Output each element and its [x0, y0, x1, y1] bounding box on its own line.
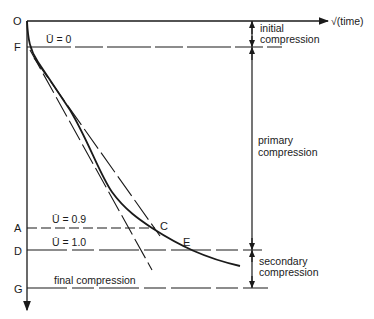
tangent-line	[30, 50, 152, 270]
compression-time-diagram: O F A D G C E Ū = 0 Ū = 0.9 Ū = 1.0 fina…	[0, 0, 374, 319]
label-a: A	[14, 222, 22, 234]
label-time-axis: √(time)	[331, 15, 364, 27]
label-f: F	[14, 41, 21, 53]
label-initial-2: compression	[260, 33, 320, 45]
label-c: C	[160, 220, 168, 232]
label-origin: O	[13, 15, 22, 27]
label-primary-2: compression	[258, 146, 318, 158]
label-u0: Ū = 0	[46, 33, 72, 45]
label-e: E	[183, 236, 190, 248]
label-u10: Ū = 1.0	[52, 236, 86, 248]
label-u09: Ū = 0.9	[52, 213, 86, 225]
consolidation-curve	[27, 21, 240, 266]
label-primary-1: primary	[258, 134, 294, 146]
label-d: D	[14, 245, 22, 257]
label-g: G	[14, 283, 23, 295]
slope-line	[34, 58, 160, 236]
label-secondary-2: compression	[259, 266, 319, 278]
label-final-compression: final compression	[54, 274, 136, 286]
